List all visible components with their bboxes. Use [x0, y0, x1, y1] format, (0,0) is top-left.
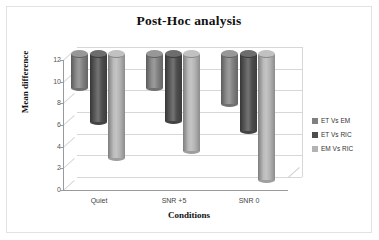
bar-body	[90, 54, 107, 122]
bar-top-cap	[71, 50, 88, 58]
legend-item[interactable]: ET Vs EM	[312, 117, 353, 124]
bar-top-cap	[240, 50, 257, 58]
chart-title: Post-Hoc analysis	[7, 13, 371, 29]
bar	[71, 49, 88, 88]
gridline-depth-connector	[63, 93, 75, 104]
bar-body	[146, 54, 163, 88]
legend-swatch-icon	[312, 146, 318, 152]
chart-legend: ET Vs EMET Vs RICEM Vs RIC	[312, 117, 353, 159]
bar	[165, 49, 182, 121]
bar-body	[165, 54, 182, 121]
bar-body	[258, 54, 275, 180]
bar-top-cap	[165, 50, 182, 58]
legend-item[interactable]: ET Vs RIC	[312, 131, 353, 138]
plot-area: 121086420 QuietSNR +5SNR 0	[63, 47, 302, 192]
y-tick-mark	[60, 103, 63, 104]
x-tick-label: SNR 0	[219, 197, 279, 204]
bar-top-cap	[146, 50, 163, 58]
legend-swatch-icon	[312, 118, 318, 124]
bar-top-cap	[90, 50, 107, 58]
bar-body	[183, 54, 200, 151]
bar	[90, 49, 107, 122]
bar-top-cap	[183, 50, 200, 58]
bar	[258, 49, 275, 180]
bar	[240, 49, 257, 131]
bar-top-cap	[108, 50, 125, 58]
bar-body	[221, 54, 238, 104]
y-axis-title: Mean difference	[20, 37, 30, 127]
gridline-depth-connector	[63, 115, 75, 126]
legend-swatch-icon	[312, 132, 318, 138]
legend-label: EM Vs RIC	[321, 145, 353, 152]
x-tick-label: SNR +5	[144, 197, 204, 204]
x-axis-line	[63, 190, 288, 191]
bar-top-cap	[258, 50, 275, 58]
legend-label: ET Vs EM	[321, 117, 350, 124]
gridline	[77, 47, 302, 48]
y-tick-mark	[60, 125, 63, 126]
back-wall-edge	[302, 47, 303, 177]
y-tick-mark	[60, 168, 63, 169]
chart-figure: Post-Hoc analysis Mean difference 121086…	[6, 6, 372, 233]
y-tick-mark	[60, 60, 63, 61]
bar-body	[240, 54, 257, 131]
bar	[183, 49, 200, 151]
y-tick-mark	[60, 147, 63, 148]
bar	[146, 49, 163, 88]
y-tick-mark	[60, 190, 63, 191]
y-tick-mark	[60, 82, 63, 83]
gridline-depth-connector	[63, 137, 75, 148]
y-axis-line	[63, 60, 64, 190]
x-axis-title: Conditions	[7, 210, 371, 220]
bar	[108, 49, 125, 158]
bar-top-cap	[221, 50, 238, 58]
bar-body	[71, 54, 88, 88]
bar-body	[108, 54, 125, 158]
legend-item[interactable]: EM Vs RIC	[312, 145, 353, 152]
x-tick-label: Quiet	[69, 197, 129, 204]
gridline-depth-connector	[63, 158, 75, 169]
bar	[221, 49, 238, 104]
legend-label: ET Vs RIC	[321, 131, 352, 138]
